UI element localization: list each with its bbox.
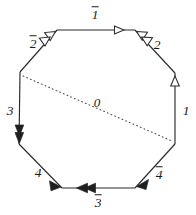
edge-label-right-text: 1 — [183, 102, 190, 118]
edge-label-top: 1 — [92, 6, 99, 22]
edge-label-lower-left: 4 — [35, 164, 42, 180]
edge-label-lower-left-text: 4 — [35, 164, 42, 180]
edge-label-right: 1 — [183, 102, 190, 118]
edge-label-upper-left-text: 2 — [30, 35, 37, 51]
edge-label-bottom: 3 — [95, 194, 102, 210]
edge-label-left-text: 3 — [7, 102, 14, 118]
edge-label-top-text: 1 — [92, 6, 99, 22]
edge-label-lower-right-text: 4 — [156, 166, 163, 182]
octagon-diagram: 1 2 1 4 3 4 3 2 0 — [0, 0, 196, 215]
edge-label-upper-left: 2 — [30, 35, 37, 51]
edge-label-left: 3 — [7, 102, 14, 118]
edge-top-arrowhead-open — [115, 26, 125, 34]
edge-label-upper-right-text: 2 — [154, 36, 161, 52]
chord-label-zero: 0 — [94, 96, 101, 109]
edge-upper-right-arrowhead-open-2 — [142, 37, 153, 46]
edge-upper-left-arrowhead-open-2 — [39, 37, 50, 46]
edge-right-arrowhead-open — [171, 76, 180, 86]
edge-label-lower-right: 4 — [156, 166, 163, 182]
edge-label-upper-right: 2 — [154, 36, 161, 52]
edge-label-bottom-text: 3 — [95, 194, 102, 210]
edge-lower-left-arrowhead-solid — [50, 181, 62, 191]
